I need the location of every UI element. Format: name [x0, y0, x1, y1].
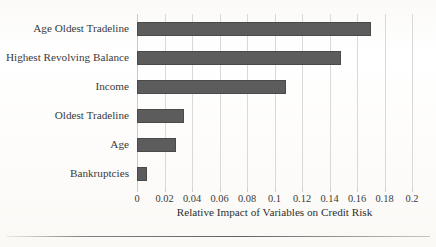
gridline	[412, 14, 413, 188]
bar	[137, 80, 286, 94]
bar	[137, 51, 341, 65]
category-label-row: Age Oldest Tradeline	[0, 14, 133, 43]
x-axis-tick-labels: 00.020.040.060.080.10.120.140.160.180.2	[137, 192, 412, 206]
category-label-row: Income	[0, 72, 133, 101]
plot-area	[137, 14, 412, 188]
bar	[137, 22, 371, 36]
category-label-row: Oldest Tradeline	[0, 101, 133, 130]
bar-row	[137, 43, 412, 72]
tick-label: 0.04	[183, 192, 201, 206]
tick-label: 0.14	[320, 192, 338, 206]
tick-label: 0.12	[293, 192, 311, 206]
tick-label: 0.1	[268, 192, 281, 206]
bar	[137, 138, 176, 152]
bar-row	[137, 101, 412, 130]
tick-label: 0	[134, 192, 139, 206]
bar	[137, 109, 184, 123]
category-axis-labels: Age Oldest Tradeline Highest Revolving B…	[0, 14, 133, 188]
tick-label: 0.08	[238, 192, 256, 206]
bar-series	[137, 14, 412, 188]
category-label-row: Highest Revolving Balance	[0, 43, 133, 72]
category-label: Income	[95, 81, 133, 92]
category-label: Age Oldest Tradeline	[33, 23, 133, 34]
x-axis-title: Relative Impact of Variables on Credit R…	[137, 206, 412, 218]
tick-label: 0.2	[406, 192, 419, 206]
bar	[137, 167, 147, 181]
bar-row	[137, 14, 412, 43]
tick-label: 0.06	[210, 192, 228, 206]
bar-row	[137, 130, 412, 159]
tick-label: 0.02	[155, 192, 173, 206]
category-label-row: Bankruptcies	[0, 159, 133, 188]
bar-row	[137, 72, 412, 101]
tick-label: 0.18	[375, 192, 393, 206]
tick-label: 0.16	[348, 192, 366, 206]
bar-chart: Age Oldest Tradeline Highest Revolving B…	[0, 0, 436, 247]
bar-row	[137, 159, 412, 188]
category-label-row: Age	[0, 130, 133, 159]
category-label: Bankruptcies	[70, 168, 133, 179]
category-label: Highest Revolving Balance	[6, 52, 133, 63]
category-label: Age	[110, 139, 133, 150]
page-divider-rule	[6, 236, 430, 237]
category-label: Oldest Tradeline	[55, 110, 133, 121]
